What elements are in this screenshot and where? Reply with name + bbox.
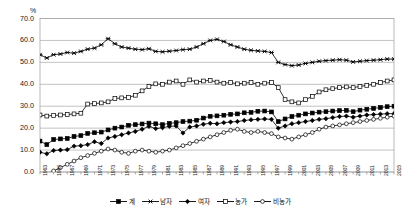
data-point xyxy=(38,139,42,143)
data-point xyxy=(351,121,355,125)
legend-item-1[interactable]: 남자 xyxy=(142,197,173,206)
data-point xyxy=(276,120,280,124)
data-point xyxy=(378,106,382,110)
data-point xyxy=(310,94,314,98)
data-point xyxy=(120,125,124,129)
data-point xyxy=(256,130,260,134)
data-point xyxy=(195,80,199,84)
data-point xyxy=(181,120,185,124)
data-point xyxy=(372,107,376,111)
data-point xyxy=(45,114,49,118)
data-point xyxy=(79,156,83,160)
data-point xyxy=(392,78,396,82)
data-point xyxy=(120,150,124,154)
data-point xyxy=(242,81,246,85)
data-point xyxy=(181,82,185,86)
legend-marker-icon xyxy=(217,197,234,206)
data-point xyxy=(317,110,321,114)
data-point xyxy=(133,123,137,127)
data-point xyxy=(215,80,219,84)
x-axis-tick-label: 1963 xyxy=(42,165,48,176)
data-point xyxy=(256,82,260,86)
data-point xyxy=(372,82,376,86)
legend-label: 농가 xyxy=(235,198,247,206)
data-point xyxy=(65,113,69,117)
data-point xyxy=(99,130,103,134)
data-point xyxy=(338,86,342,90)
data-point xyxy=(236,127,240,131)
data-point xyxy=(331,109,335,113)
legend-item-3[interactable]: 농가 xyxy=(217,197,248,206)
data-point xyxy=(93,102,97,106)
x-axis-tick-label: 1979 xyxy=(151,165,157,176)
data-point xyxy=(270,110,274,114)
data-point xyxy=(338,109,342,113)
data-point xyxy=(38,113,42,117)
data-point xyxy=(93,151,97,155)
data-point xyxy=(344,85,348,89)
x-axis-tick-label: 1969 xyxy=(83,165,89,176)
data-point xyxy=(242,111,246,115)
data-point xyxy=(365,83,369,87)
data-point xyxy=(331,87,335,91)
data-point xyxy=(215,114,219,118)
data-point xyxy=(52,114,56,118)
data-point xyxy=(133,149,137,153)
data-point xyxy=(106,128,110,132)
x-axis-tick-label: 1975 xyxy=(124,165,130,176)
x-axis-tick-label: 1973 xyxy=(110,165,116,176)
data-point xyxy=(229,112,233,116)
legend-item-0[interactable]: 계 xyxy=(110,197,135,206)
x-axis-tick-label: 2007 xyxy=(342,165,348,176)
data-point xyxy=(331,124,335,128)
data-point xyxy=(372,117,376,121)
data-point xyxy=(154,82,158,86)
x-axis-tick-label: 1971 xyxy=(97,165,103,176)
data-point xyxy=(72,135,76,139)
legend-label: 계 xyxy=(129,198,135,206)
legend-item-2[interactable]: 여자 xyxy=(179,197,210,206)
data-point xyxy=(140,89,144,93)
data-point xyxy=(167,80,171,84)
data-point xyxy=(106,147,110,151)
data-point xyxy=(113,148,117,152)
data-point xyxy=(79,111,83,115)
x-axis-tick-label: 2013 xyxy=(383,165,389,176)
x-axis-tick-label: 1999 xyxy=(287,165,293,176)
data-point xyxy=(236,82,240,86)
data-point xyxy=(263,81,267,85)
data-point xyxy=(338,123,342,127)
data-point xyxy=(229,81,233,85)
data-point xyxy=(140,122,144,126)
data-point xyxy=(229,128,233,132)
data-point xyxy=(324,110,328,114)
data-point xyxy=(270,132,274,136)
data-point xyxy=(127,96,131,100)
x-axis-tick-label: 1985 xyxy=(192,165,198,176)
data-point xyxy=(147,85,151,89)
data-point xyxy=(113,126,117,130)
legend-item-4[interactable]: 비농가 xyxy=(254,197,291,206)
plot-frame xyxy=(40,19,394,173)
data-point xyxy=(256,109,260,113)
data-point xyxy=(283,98,287,102)
data-point xyxy=(358,85,362,89)
data-point xyxy=(79,134,83,138)
data-point xyxy=(188,119,192,123)
data-point xyxy=(317,90,321,94)
data-point xyxy=(385,115,389,119)
data-point xyxy=(195,139,199,143)
legend-marker-icon xyxy=(254,197,271,206)
data-point xyxy=(304,133,308,137)
data-point xyxy=(249,110,253,114)
data-point xyxy=(344,108,348,112)
x-axis-tick-label: 2001 xyxy=(301,165,307,176)
data-point xyxy=(283,136,287,140)
data-point xyxy=(365,119,369,123)
x-axis-tick-label: 1997 xyxy=(274,165,280,176)
data-point xyxy=(351,110,355,114)
data-point xyxy=(201,116,205,120)
data-point xyxy=(72,112,76,116)
data-point xyxy=(45,143,49,147)
